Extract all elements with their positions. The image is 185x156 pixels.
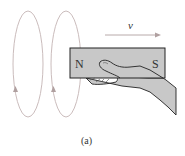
current-loop-1	[13, 11, 43, 117]
velocity-arrow: v	[105, 19, 161, 38]
figure-caption: (a)	[81, 135, 92, 147]
velocity-label: v	[128, 19, 133, 31]
induction-diagram: v N S (a)	[0, 0, 185, 156]
bar-magnet: N S	[70, 48, 165, 78]
arrowhead-icon	[155, 33, 161, 38]
loop-arrow-icon	[51, 86, 56, 92]
north-pole-label: N	[75, 57, 84, 71]
south-pole-label: S	[152, 57, 159, 71]
hand	[86, 76, 176, 115]
loop-arrow-icon	[13, 86, 18, 92]
